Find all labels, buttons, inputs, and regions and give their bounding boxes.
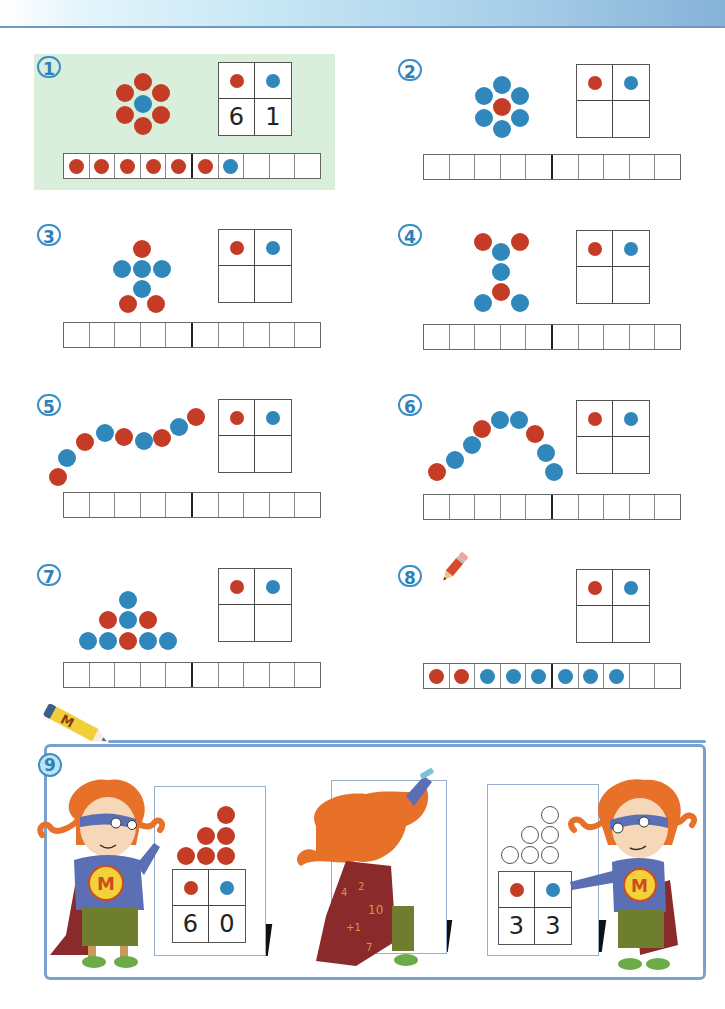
red-count[interactable]: 6 <box>219 99 255 135</box>
crayon-icon: M <box>38 704 114 746</box>
exercise-number-5: 5 <box>37 394 61 416</box>
cape-number: +1 <box>346 922 361 933</box>
blue-count[interactable] <box>255 266 291 302</box>
blue-dot-icon <box>255 230 291 266</box>
ten-frame-7[interactable] <box>63 662 321 688</box>
blue-dot-icon <box>613 231 649 267</box>
blue-dot-icon <box>255 400 291 436</box>
count-table-8 <box>576 569 650 643</box>
blue-dot-icon <box>255 63 291 99</box>
red-count: 6 <box>173 906 209 942</box>
red-count[interactable] <box>577 101 613 137</box>
ten-frame-4[interactable] <box>423 324 681 350</box>
blue-dot-icon <box>613 570 649 606</box>
ten-frame-8[interactable] <box>423 663 681 689</box>
blue-count: 0 <box>209 906 245 942</box>
ten-frame-2[interactable] <box>423 154 681 180</box>
red-count[interactable] <box>219 605 255 641</box>
blue-count[interactable] <box>613 101 649 137</box>
blue-dot-icon <box>613 65 649 101</box>
blue-count[interactable] <box>255 436 291 472</box>
red-count[interactable] <box>219 266 255 302</box>
red-dot-icon <box>577 401 613 437</box>
superhero-girl-thinking: M <box>560 770 700 975</box>
blue-dot-icon <box>613 401 649 437</box>
blue-dot-icon <box>255 569 291 605</box>
red-dot-icon <box>499 872 535 908</box>
blue-count[interactable] <box>613 437 649 473</box>
red-dot-icon <box>577 231 613 267</box>
red-dot-icon <box>219 230 255 266</box>
ten-frame-3[interactable] <box>63 322 321 348</box>
ten-frame-1[interactable] <box>63 153 321 179</box>
red-count[interactable] <box>577 267 613 303</box>
red-dot-icon <box>577 570 613 606</box>
red-count[interactable] <box>577 437 613 473</box>
red-dot-icon <box>219 63 255 99</box>
blue-count[interactable] <box>255 605 291 641</box>
blue-count[interactable] <box>613 606 649 642</box>
exercise-number-7: 7 <box>37 564 61 586</box>
exercise-number-6: 6 <box>398 394 422 416</box>
red-count: 3 <box>499 908 535 944</box>
superhero-girl-pointing: M <box>36 765 166 970</box>
count-table-6 <box>576 400 650 474</box>
hero-logo: M <box>97 873 115 894</box>
red-count[interactable] <box>577 606 613 642</box>
exercise-number-1: 1 <box>37 56 61 78</box>
cape-number: 4 <box>341 887 347 898</box>
red-dot-icon <box>219 569 255 605</box>
cape-number: 7 <box>366 942 372 953</box>
exercise-number-4: 4 <box>398 224 422 246</box>
count-table-5 <box>218 399 292 473</box>
count-table-3 <box>218 229 292 303</box>
red-dot-icon <box>219 400 255 436</box>
red-dot-icon <box>173 870 209 906</box>
cape-number: 10 <box>368 903 383 917</box>
count-table-1: 6 1 <box>218 62 292 136</box>
exercise-number-3: 3 <box>37 224 61 246</box>
red-dot-icon <box>577 65 613 101</box>
red-count[interactable] <box>219 436 255 472</box>
cape-number: 2 <box>358 881 364 892</box>
pencil-icon <box>437 548 471 586</box>
header-band <box>0 0 725 28</box>
superhero-girl-writing: 4 2 10 +1 7 <box>296 766 456 976</box>
frame-top-line <box>108 740 706 743</box>
count-table-9a: 6 0 <box>172 869 246 943</box>
blue-count[interactable]: 1 <box>255 99 291 135</box>
exercise-number-8: 8 <box>398 565 422 587</box>
exercise-number-2: 2 <box>398 59 422 81</box>
ten-frame-6[interactable] <box>423 494 681 520</box>
blue-dot-icon <box>209 870 245 906</box>
ten-frame-5[interactable] <box>63 492 321 518</box>
blue-count[interactable] <box>613 267 649 303</box>
hero-logo: M <box>631 876 648 896</box>
count-table-4 <box>576 230 650 304</box>
count-table-2 <box>576 64 650 138</box>
count-table-7 <box>218 568 292 642</box>
